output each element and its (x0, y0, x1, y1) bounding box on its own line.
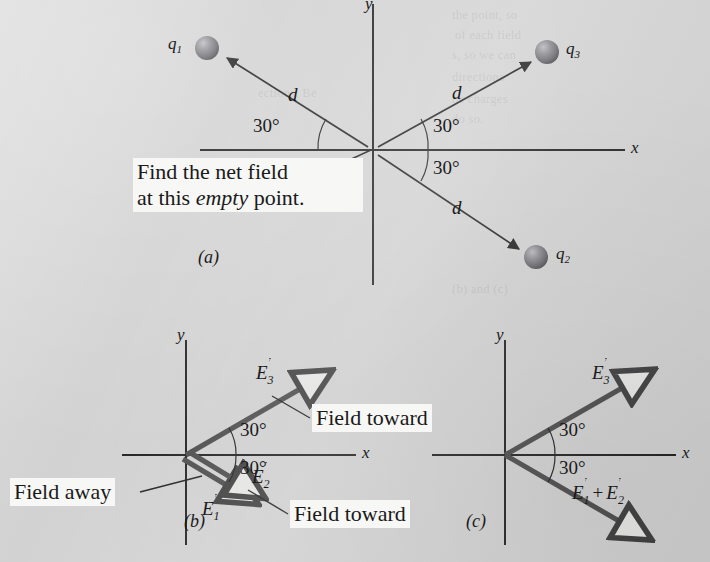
vector-subscript: 2 (264, 477, 270, 491)
vector-subscript: 3 (604, 373, 610, 387)
vector-label-E3-c: E3 (592, 362, 610, 388)
callout-field-toward-e2: Field toward (290, 500, 410, 528)
distance-label-d-q1: d (288, 85, 298, 104)
vector-subscript: 3 (268, 373, 274, 387)
charge-label-q3: q3 (566, 40, 580, 60)
angle-arc-q1 (318, 119, 326, 150)
vector-symbol-E: E (256, 362, 268, 384)
vector-subscript: 2 (618, 493, 624, 507)
panel-c-x-axis-label: x (682, 444, 690, 461)
panel-a-axes (200, 4, 625, 285)
panel-label-b: (b) (184, 512, 205, 530)
vector-subscript: 1 (214, 509, 220, 523)
angle-label-30-E12-b: 30° (240, 458, 267, 477)
panel-a-charge-arrows (227, 58, 531, 249)
plus-sign: + (590, 482, 607, 503)
panel-c-y-axis-label: y (496, 326, 504, 343)
callout-line-2: at this empty point. (137, 185, 359, 211)
charge-sphere-q3 (535, 40, 559, 64)
callout-line-2-emphasis: empty (196, 185, 249, 210)
vector-subscript: 1 (584, 493, 590, 507)
leader-field-toward-e2 (248, 490, 288, 514)
angle-label-30-E12-c: 30° (559, 458, 586, 477)
distance-label-d-q3: d (452, 83, 462, 102)
vector-label-E3-b: E3 (256, 362, 274, 388)
charge-sphere-q2 (524, 245, 548, 269)
vector-label-E1-plus-E2-c: E1+E2 (572, 482, 624, 508)
callout-find-net-field: Find the net field at this empty point. (133, 158, 363, 212)
panel-a-x-axis-label: x (631, 139, 639, 156)
leader-field-away-e1 (140, 476, 202, 492)
vector-symbol-E: E (606, 482, 618, 504)
charge-sphere-q1 (195, 36, 219, 60)
angle-label-30-E3-b: 30° (240, 420, 267, 439)
callout-field-away-e1: Field away (10, 478, 115, 506)
charge-label-q1: q1 (168, 35, 182, 55)
panel-b-y-axis-label: y (177, 326, 185, 343)
angle-label-30-q3: 30° (433, 116, 460, 135)
physics-figure: the point, so of each field s, so we can… (0, 0, 710, 562)
vector-symbol-E: E (592, 362, 604, 384)
angle-label-30-q1: 30° (253, 116, 280, 135)
panel-a-y-axis-label: y (365, 0, 373, 12)
leader-field-toward-e3 (272, 396, 310, 418)
callout-line-1: Find the net field (137, 159, 359, 185)
angle-arc-q2 (421, 150, 428, 181)
distance-label-d-q2: d (452, 198, 462, 217)
vector-symbol-E: E (572, 482, 584, 504)
angle-label-30-E3-c: 30° (559, 420, 586, 439)
angle-arc-q3 (421, 119, 428, 150)
panel-label-c: (c) (466, 512, 486, 530)
callout-line-2-pre: at this (137, 185, 196, 210)
angle-label-30-q2: 30° (433, 158, 460, 177)
callout-field-toward-e3: Field toward (312, 404, 432, 432)
charge-label-q2: q2 (556, 245, 570, 265)
callout-line-2-post: point. (248, 185, 304, 210)
panel-a-charges (195, 36, 559, 269)
panel-b-x-axis-label: x (362, 444, 370, 461)
panel-label-a: (a) (198, 248, 219, 266)
